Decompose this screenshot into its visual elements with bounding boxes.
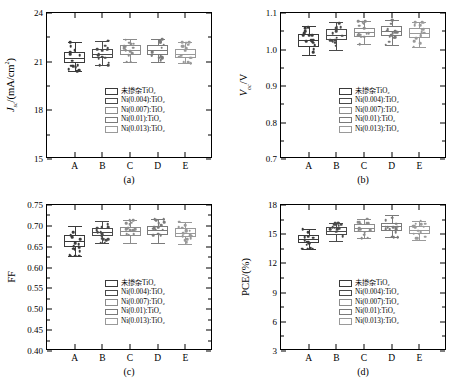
data-point — [96, 231, 99, 234]
data-point — [335, 231, 338, 234]
data-point — [132, 229, 135, 232]
data-point — [384, 225, 387, 228]
data-point — [123, 45, 126, 48]
panel-d-y-minor-tick — [442, 219, 445, 220]
legend-item: Ni(0.01):TiO₂ — [105, 307, 165, 316]
legend-item: Ni(0.004):TiO₂ — [339, 288, 399, 297]
panel-d-y-tick-mark — [440, 292, 445, 293]
panel-a-y-tick-mark — [206, 110, 211, 111]
data-point — [104, 56, 107, 59]
data-point — [419, 35, 422, 38]
panel-d-y-tick-mark — [281, 351, 286, 352]
panel-c-y-tick-label: 0.75 — [27, 200, 47, 210]
data-point — [419, 42, 422, 45]
legend-item: Ni(0.013):TiO₂ — [339, 317, 399, 326]
data-point — [188, 41, 191, 44]
data-point — [107, 64, 110, 67]
data-point — [72, 247, 75, 250]
panel-d-x-tick-label: E — [416, 349, 422, 363]
data-point — [71, 59, 74, 62]
panel-c-x-tick-mark — [157, 205, 158, 210]
panel-d-x-tick-mark — [336, 344, 337, 349]
panel-c-y-tick-mark — [206, 225, 211, 226]
data-point — [307, 235, 310, 238]
data-point — [189, 56, 192, 59]
panel-b-y-minor-tick — [281, 140, 284, 141]
data-point — [390, 22, 393, 25]
panel-b-x-tick-label: E — [416, 157, 422, 171]
panel-a: Jsc/(mA/cm2) 未掺杂TiO₂Ni(0.004):TiO₂Ni(0.0… — [0, 0, 234, 192]
legend-item: 未掺杂TiO₂ — [105, 279, 165, 288]
panel-d-y-minor-tick — [281, 248, 284, 249]
panel-c-y-tick-mark — [47, 225, 52, 226]
panel-c-y-tick-label: 0.65 — [27, 242, 47, 252]
data-point — [150, 55, 153, 58]
panel-d-y-tick-mark — [281, 205, 286, 206]
data-point — [419, 24, 422, 27]
data-point — [358, 43, 361, 46]
data-point — [180, 54, 183, 57]
panel-c-y-minor-tick — [208, 340, 211, 341]
data-point — [78, 250, 81, 253]
data-point — [178, 226, 181, 229]
data-point — [151, 51, 154, 54]
data-point — [338, 22, 341, 25]
legend-label: Ni(0.004):TiO₂ — [355, 96, 399, 105]
panel-c-y-tick-mark — [47, 351, 52, 352]
data-point — [68, 68, 71, 71]
panel-c-y-tick-mark — [47, 246, 52, 247]
legend-item: Ni(0.004):TiO₂ — [339, 96, 399, 105]
data-point — [99, 64, 102, 67]
panel-c-y-tick-mark — [206, 267, 211, 268]
data-point — [415, 37, 418, 40]
box-whisker-cap — [68, 71, 82, 72]
data-point — [125, 222, 128, 225]
data-point — [107, 39, 110, 42]
data-point — [104, 44, 107, 47]
legend-item: Ni(0.013):TiO₂ — [339, 125, 399, 134]
panel-a-x-tick-mark — [74, 152, 75, 157]
legend-label: Ni(0.013):TiO₂ — [355, 125, 399, 134]
box-whisker-cap — [95, 243, 109, 244]
data-point — [190, 234, 193, 237]
data-point — [387, 226, 390, 229]
legend-swatch — [339, 88, 352, 95]
panel-d-y-minor-tick — [281, 219, 284, 220]
panel-d-x-tick-label: C — [361, 349, 367, 363]
panel-d-x-tick-label: A — [305, 349, 312, 363]
data-point — [363, 35, 366, 38]
legend-swatch — [339, 117, 352, 124]
panel-a-y-tick-mark — [206, 159, 211, 160]
panel-c-y-tick-label: 0.55 — [27, 283, 47, 293]
data-point — [129, 223, 132, 226]
panel-a-y-minor-tick — [47, 37, 50, 38]
panel-b-caption: (b) — [280, 174, 446, 185]
data-point — [78, 246, 81, 249]
data-point — [396, 225, 399, 228]
data-point — [311, 40, 314, 43]
data-point — [101, 50, 104, 53]
panel-b-x-tick-label: B — [333, 157, 339, 171]
data-point — [390, 34, 393, 37]
box-whisker-cap — [357, 219, 371, 220]
panel-a-y-minor-tick — [208, 86, 211, 87]
box-plot-median — [175, 233, 196, 234]
legend-swatch — [105, 107, 118, 114]
data-point — [384, 219, 387, 222]
data-point — [393, 36, 396, 39]
panel-c-y-tick-label: 0.45 — [27, 325, 47, 335]
panel-c-y-tick-mark — [206, 288, 211, 289]
data-point — [96, 48, 99, 51]
panel-d-y-axis-label: PCE/(%) — [238, 204, 252, 350]
legend-item: Ni(0.013):TiO₂ — [105, 317, 165, 326]
panel-b-x-tick-mark — [419, 152, 420, 157]
panel-c-y-minor-tick — [47, 340, 50, 341]
data-point — [307, 231, 310, 234]
panel-c-y-axis-label: FF — [4, 204, 18, 350]
data-point — [305, 40, 308, 43]
data-point — [357, 20, 360, 23]
data-point — [159, 41, 162, 44]
data-point — [301, 248, 304, 251]
data-point — [78, 254, 81, 257]
box-whisker-cap — [123, 243, 137, 244]
